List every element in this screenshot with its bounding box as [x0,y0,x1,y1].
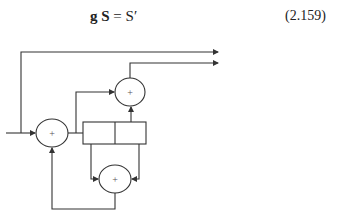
plus-icon: + [112,174,118,185]
output-1-arrow [21,52,218,133]
plus-icon: + [127,87,133,98]
branch-to-output-adder [76,92,114,133]
tap-1-line [91,144,98,179]
output-2-arrow [130,63,218,78]
plus-icon: + [49,128,55,139]
feedback-arrow [52,148,115,209]
tap-2-line [132,144,139,179]
encoder-diagram: + + + [0,0,343,213]
